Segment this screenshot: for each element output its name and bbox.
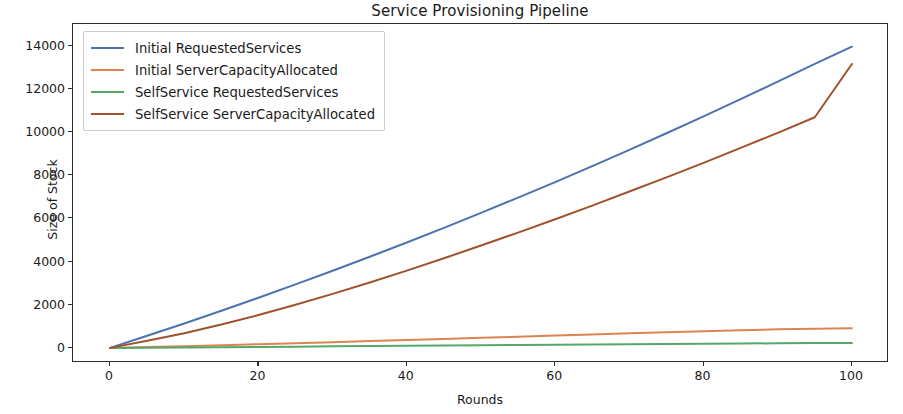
legend-color-swatch bbox=[91, 47, 124, 49]
legend-item[interactable]: SelfService ServerCapacityAllocated bbox=[91, 103, 375, 125]
x-tick-label: 0 bbox=[105, 368, 113, 383]
x-tick-label: 40 bbox=[398, 368, 414, 383]
legend-item-label: Initial RequestedServices bbox=[135, 41, 301, 56]
x-tick-mark bbox=[554, 362, 555, 366]
x-tick-mark bbox=[703, 362, 704, 366]
legend-color-swatch bbox=[91, 113, 124, 115]
y-tick-label: 2000 bbox=[33, 296, 65, 311]
x-tick-mark bbox=[109, 362, 110, 366]
x-tick-label: 100 bbox=[839, 368, 863, 383]
legend-item-label: SelfService ServerCapacityAllocated bbox=[135, 107, 375, 122]
x-tick-mark bbox=[851, 362, 852, 366]
legend-item[interactable]: SelfService RequestedServices bbox=[91, 81, 375, 103]
legend-item[interactable]: Initial ServerCapacityAllocated bbox=[91, 59, 375, 81]
legend-item[interactable]: Initial RequestedServices bbox=[91, 37, 375, 59]
x-axis-label: Rounds bbox=[72, 392, 888, 407]
legend-item-label: Initial ServerCapacityAllocated bbox=[135, 63, 338, 78]
x-tick-mark bbox=[406, 362, 407, 366]
x-tick-label: 60 bbox=[546, 368, 562, 383]
x-tick-mark bbox=[257, 362, 258, 366]
legend-item-label: SelfService RequestedServices bbox=[135, 85, 338, 100]
y-tick-label: 0 bbox=[57, 339, 65, 354]
y-tick-label: 14000 bbox=[25, 37, 65, 52]
y-tick-label: 12000 bbox=[25, 80, 65, 95]
x-tick-label: 80 bbox=[695, 368, 711, 383]
chart-title: Service Provisioning Pipeline bbox=[72, 2, 888, 20]
y-tick-label: 10000 bbox=[25, 123, 65, 138]
x-tick-label: 20 bbox=[250, 368, 266, 383]
y-axis-label: Size of Stock bbox=[45, 140, 60, 260]
legend-color-swatch bbox=[91, 91, 124, 93]
chart-legend: Initial RequestedServicesInitial ServerC… bbox=[83, 31, 385, 131]
chart-figure: Service Provisioning Pipeline 0200040006… bbox=[0, 0, 903, 414]
legend-color-swatch bbox=[91, 69, 124, 71]
